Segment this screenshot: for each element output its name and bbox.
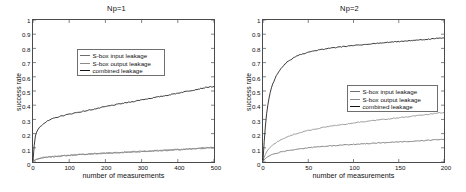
legend-line-swatch-icon — [80, 55, 90, 56]
x-tick-label: 100 — [349, 164, 359, 171]
legend-item-label: S-box input leakage — [363, 88, 418, 96]
x-tick-label: 400 — [174, 164, 184, 171]
legend-item-label: S-box input leakage — [93, 52, 148, 60]
legend-item[interactable]: combined leakage — [80, 67, 161, 75]
plot-area-left: 00.10.20.30.40.50.60.70.80.9101002003004… — [32, 19, 215, 163]
y-tick-label: 0.3 — [22, 117, 31, 124]
chart-title-left: Np=1 — [0, 4, 233, 13]
chart-panel-right: Np=2 success rate 00.10.20.30.40.50.60.7… — [233, 0, 466, 192]
y-tick-label: 0.8 — [252, 45, 261, 52]
series-line — [263, 112, 444, 161]
legend-item-label: S-box output leakage — [93, 60, 151, 68]
series-layer-left — [33, 20, 214, 162]
x-tick-label: 200 — [441, 164, 451, 171]
series-line — [33, 148, 214, 162]
y-tick-label: 0.2 — [252, 132, 261, 139]
y-tick-label: 0.5 — [22, 89, 31, 96]
legend-line-swatch-icon — [350, 91, 360, 92]
legend-item[interactable]: S-box output leakage — [80, 60, 161, 68]
x-tick-label: 100 — [64, 164, 74, 171]
legend-line-swatch-icon — [80, 70, 90, 71]
legend-line-swatch-icon — [80, 63, 90, 64]
y-tick-label: 0.3 — [252, 117, 261, 124]
legend-item-label: combined leakage — [363, 103, 413, 111]
series-line — [263, 139, 444, 161]
y-tick-label: 0.4 — [252, 103, 261, 110]
y-tick-label: 0.5 — [252, 89, 261, 96]
legend-item[interactable]: combined leakage — [350, 103, 434, 111]
legend-item-label: combined leakage — [93, 67, 143, 75]
y-tick-label: 0.7 — [22, 60, 31, 67]
legend-line-swatch-icon — [350, 106, 360, 107]
y-tick-label: 0.1 — [252, 146, 261, 153]
y-tick-label: 0.8 — [22, 45, 31, 52]
figure-canvas: Np=1 success rate 00.10.20.30.40.50.60.7… — [0, 0, 466, 192]
y-tick-label: 0.9 — [22, 31, 31, 38]
x-tick-label: 500 — [211, 164, 221, 171]
y-tick-label: 0.1 — [22, 146, 31, 153]
legend-line-swatch-icon — [350, 99, 360, 100]
y-tick-label: 0.6 — [22, 74, 31, 81]
x-tick-label: 0 — [31, 164, 34, 171]
x-axis-label-right: number of measurements — [313, 171, 395, 180]
x-tick-label: 200 — [101, 164, 111, 171]
legend-item-label: S-box output leakage — [363, 96, 421, 104]
series-line — [33, 147, 214, 161]
y-tick-label: 0.7 — [252, 60, 261, 67]
x-tick-label: 50 — [305, 164, 312, 171]
legend-right[interactable]: S-box input leakageS-box output leakagec… — [347, 85, 438, 112]
legend-item[interactable]: S-box input leakage — [350, 88, 434, 96]
y-tick-label: 0 — [257, 161, 260, 168]
x-axis-label-left: number of measurements — [83, 171, 165, 180]
y-tick-label: 0.4 — [22, 103, 31, 110]
legend-item[interactable]: S-box input leakage — [80, 52, 161, 60]
legend-left[interactable]: S-box input leakageS-box output leakagec… — [77, 49, 165, 76]
chart-title-right: Np=2 — [233, 4, 466, 13]
y-tick-label: 0 — [27, 161, 30, 168]
legend-item[interactable]: S-box output leakage — [350, 96, 434, 104]
chart-panel-left: Np=1 success rate 00.10.20.30.40.50.60.7… — [0, 0, 233, 192]
x-tick-label: 150 — [395, 164, 405, 171]
y-tick-label: 1 — [27, 17, 30, 24]
x-tick-label: 0 — [261, 164, 264, 171]
y-tick-label: 0.9 — [252, 31, 261, 38]
y-tick-label: 0.2 — [22, 132, 31, 139]
x-tick-label: 300 — [138, 164, 148, 171]
y-tick-label: 1 — [257, 17, 260, 24]
y-tick-label: 0.6 — [252, 74, 261, 81]
